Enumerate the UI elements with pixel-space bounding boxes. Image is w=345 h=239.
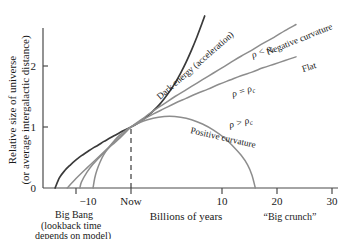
x-tick-label-10: 10 — [217, 195, 229, 207]
y-axis-title-line2: (or average intergalactic distance) — [19, 35, 32, 184]
big-bang-note-line3: depends on model) — [35, 230, 111, 239]
x-axis-title: Billions of years — [150, 210, 223, 222]
x-tick-label-now: Now — [120, 195, 141, 207]
cosmology-expansion-chart: 2 1 0 Relative size of universe (or aver… — [0, 0, 345, 239]
y-axis-title: Relative size of universe (or average in… — [6, 35, 32, 184]
x-tick-label-20: 20 — [272, 195, 284, 207]
big-bang-note-line1: Big Bang — [55, 209, 93, 220]
curve-label-positive-curvature: Positive curvature — [190, 125, 257, 150]
curve-label-flat: Flat — [301, 60, 318, 74]
curve-dark-energy — [55, 16, 205, 188]
y-tick-label-2: 2 — [31, 60, 37, 72]
rho-lt-text: ρ < ρ — [249, 43, 273, 60]
y-tick-label-1: 1 — [31, 121, 37, 133]
curves-group — [55, 16, 296, 188]
rho-label-positive-curvature: ρ > ρc — [227, 115, 253, 132]
rho-eq-subscript: c — [251, 86, 256, 94]
big-crunch-note: “Big crunch” — [263, 211, 316, 222]
x-tick-label-minus10: −10 — [79, 195, 97, 207]
rho-label-flat: ρ = ρc — [230, 83, 256, 101]
chart-svg: 2 1 0 Relative size of universe (or aver… — [0, 0, 345, 239]
rho-gt-text: ρ > ρ — [227, 115, 250, 130]
rho-gt-subscript: c — [249, 118, 254, 126]
y-tick-label-0: 0 — [31, 182, 37, 194]
rho-eq-text: ρ = ρ — [230, 83, 254, 99]
x-tick-label-30: 30 — [327, 195, 339, 207]
y-axis-title-line1: Relative size of universe — [6, 56, 18, 165]
big-bang-note: Big Bang (lookback time depends on model… — [35, 209, 111, 239]
y-axis: 2 1 0 — [31, 28, 49, 194]
